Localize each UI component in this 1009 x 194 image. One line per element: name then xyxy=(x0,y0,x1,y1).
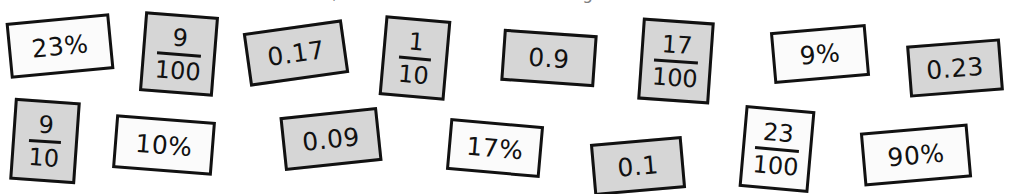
value-card-9-over-10[interactable]: 9 10 xyxy=(9,98,81,184)
value-card-17-percent[interactable]: 17% xyxy=(446,118,544,178)
value-card-23-over-100[interactable]: 23 100 xyxy=(739,105,816,193)
fraction-numerator: 23 xyxy=(762,119,795,147)
value-card-10-percent[interactable]: 10% xyxy=(112,114,216,176)
card-sort-worksheet: Cut out the cards below, then sort them … xyxy=(0,0,1009,194)
value-card-9-over-100[interactable]: 9 100 xyxy=(139,11,219,97)
card-value-text: 0.23 xyxy=(925,53,984,82)
fraction-denominator: 100 xyxy=(154,56,202,85)
fraction-numerator: 9 xyxy=(172,25,189,51)
value-card-0-09[interactable]: 0.09 xyxy=(279,107,382,171)
fraction-denominator: 100 xyxy=(752,150,800,179)
card-fraction: 17 100 xyxy=(651,31,701,91)
worksheet-heading: Cut out the cards below, then sort them … xyxy=(0,0,1009,3)
card-value-text: 0.09 xyxy=(301,124,361,155)
card-value-text: 10% xyxy=(135,130,194,159)
value-card-0-23[interactable]: 0.23 xyxy=(906,38,1004,97)
card-fraction: 1 10 xyxy=(397,28,434,88)
value-card-9-percent[interactable]: 9% xyxy=(770,24,870,84)
value-card-0-9[interactable]: 0.9 xyxy=(500,29,597,87)
fraction-numerator: 9 xyxy=(38,112,55,138)
card-fraction: 9 10 xyxy=(27,111,63,170)
fraction-denominator: 100 xyxy=(651,63,698,91)
value-card-23-percent[interactable]: 23% xyxy=(6,13,115,79)
card-value-text: 23% xyxy=(30,31,89,61)
card-value-text: 0.9 xyxy=(528,44,571,72)
value-card-90-percent[interactable]: 90% xyxy=(860,123,972,186)
card-value-text: 90% xyxy=(886,140,945,170)
value-card-17-over-100[interactable]: 17 100 xyxy=(637,18,715,105)
value-card-0-17[interactable]: 0.17 xyxy=(243,19,350,86)
fraction-denominator: 10 xyxy=(28,143,60,170)
card-value-text: 0.1 xyxy=(616,152,659,181)
value-card-0-1[interactable]: 0.1 xyxy=(590,136,686,194)
fraction-denominator: 10 xyxy=(397,60,430,88)
fraction-numerator: 17 xyxy=(661,32,693,59)
card-fraction: 23 100 xyxy=(752,119,803,180)
value-card-1-over-10[interactable]: 1 10 xyxy=(379,15,452,100)
fraction-numerator: 1 xyxy=(408,29,425,55)
card-value-text: 17% xyxy=(465,133,524,163)
card-value-text: 0.17 xyxy=(266,37,327,70)
card-value-text: 9% xyxy=(799,40,842,68)
card-fraction: 9 100 xyxy=(154,24,204,84)
